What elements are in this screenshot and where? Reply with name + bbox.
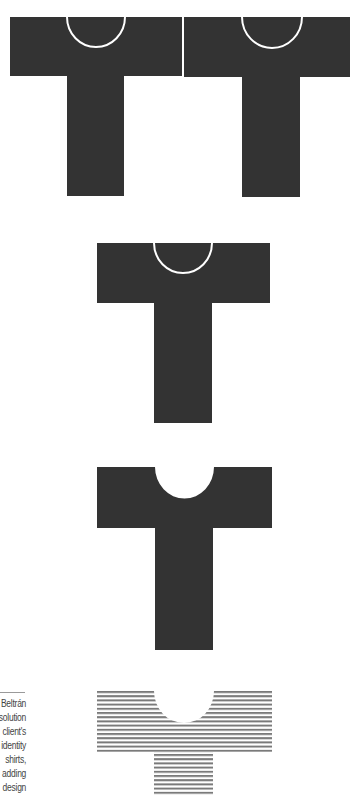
shirt-1-body: [10, 17, 182, 196]
shirt-4: [97, 467, 272, 650]
caption-line: adding: [0, 767, 26, 781]
shirt-4-body: [97, 467, 272, 650]
shirt-1: [10, 17, 182, 196]
caption-line: solution: [0, 711, 26, 725]
tshirt-illustrations: [0, 0, 350, 795]
caption-divider: [0, 692, 25, 693]
caption-line: shirts,: [0, 753, 26, 767]
caption-line: client's: [0, 725, 26, 739]
shirt-5-body-striped: [97, 691, 272, 795]
caption-line: identity: [0, 739, 26, 753]
shirt-3: [97, 243, 270, 423]
shirt-3-body: [97, 243, 270, 423]
caption-text: Beltrán solution client's identity shirt…: [0, 697, 26, 795]
shirt-2-body: [184, 17, 350, 197]
caption-line: Beltrán: [0, 697, 26, 711]
shirt-2: [184, 17, 350, 197]
caption-line: design: [0, 781, 26, 795]
shirt-5: [97, 691, 272, 795]
